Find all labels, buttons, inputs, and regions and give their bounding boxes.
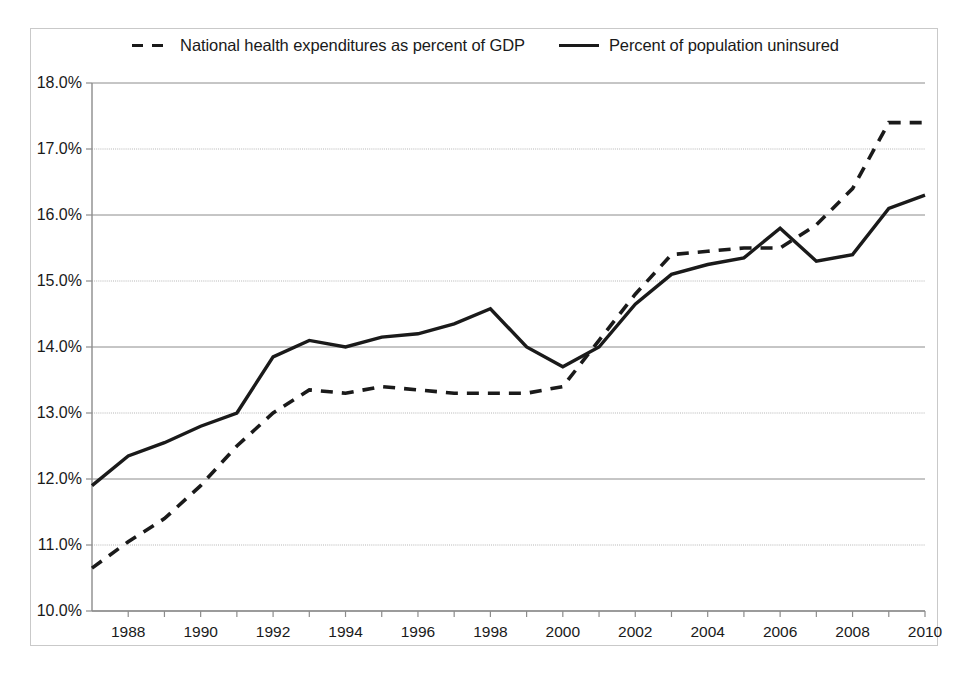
- data-series: [92, 123, 925, 568]
- series-line-uninsured: [92, 195, 925, 485]
- plot-area: [0, 0, 969, 675]
- series-line-nhe-gdp: [92, 123, 925, 568]
- chart-container: National health expenditures as percent …: [0, 0, 969, 675]
- gridlines: [92, 83, 925, 611]
- axis-ticks: [86, 83, 925, 617]
